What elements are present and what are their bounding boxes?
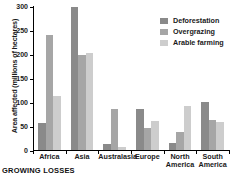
y-tick-mark: [30, 55, 34, 56]
bar: [78, 55, 86, 150]
bar: [144, 128, 152, 150]
bar: [53, 96, 61, 150]
x-axis-label: South America: [196, 153, 229, 169]
x-axis-label: North America: [164, 153, 197, 169]
bar: [46, 35, 54, 150]
bar: [184, 106, 192, 150]
bar-chart-figure: Area affected (millions of hectares) 050…: [0, 0, 237, 175]
y-tick-label: 250: [16, 27, 28, 35]
bar: [86, 53, 94, 150]
legend-label: Arable farming: [173, 39, 224, 47]
bar-group: [38, 6, 61, 150]
y-tick-mark: [30, 103, 34, 104]
bar-group: [136, 6, 159, 150]
x-tick-mark: [229, 150, 230, 154]
y-tick-label: 300: [16, 3, 28, 11]
bar: [111, 109, 119, 150]
legend-label: Deforestation: [173, 17, 219, 25]
y-tick-label: 150: [16, 75, 28, 83]
y-tick-label: 0: [24, 147, 28, 155]
chart-legend: DeforestationOvergrazingArable farming: [160, 16, 224, 49]
bar: [201, 102, 209, 150]
x-axis-label: Africa: [33, 153, 66, 161]
bar: [216, 122, 224, 150]
bar: [38, 123, 46, 150]
legend-item: Arable farming: [160, 38, 224, 48]
bar: [71, 7, 79, 150]
bar-group: [103, 6, 126, 150]
legend-swatch-icon: [160, 29, 168, 35]
bar: [176, 132, 184, 150]
legend-swatch-icon: [160, 40, 168, 46]
x-axis-label: Australasia: [98, 153, 131, 161]
legend-item: Overgrazing: [160, 27, 224, 37]
legend-item: Deforestation: [160, 16, 224, 26]
bar: [118, 147, 126, 150]
bar: [209, 120, 217, 150]
y-tick-mark: [30, 31, 34, 32]
bar: [169, 143, 177, 150]
bar-group: [71, 6, 94, 150]
x-axis-label: Europe: [131, 153, 164, 161]
figure-caption: GROWING LOSSES: [2, 166, 75, 175]
legend-label: Overgrazing: [173, 28, 215, 36]
y-tick-mark: [30, 7, 34, 8]
bar: [136, 109, 144, 150]
y-tick-label: 100: [16, 99, 28, 107]
bar: [103, 144, 111, 150]
legend-swatch-icon: [160, 18, 168, 24]
bar: [151, 121, 159, 150]
y-tick-label: 200: [16, 51, 28, 59]
y-tick-mark: [30, 79, 34, 80]
x-axis-label: Asia: [66, 153, 99, 161]
y-tick-mark: [30, 127, 34, 128]
y-tick-label: 50: [20, 123, 28, 131]
